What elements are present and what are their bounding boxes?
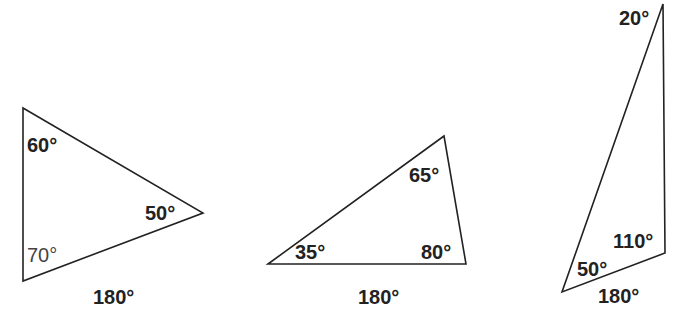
triangle-2: 65° 35° 80° 180° — [268, 136, 466, 308]
triangle-2-angle-right: 80° — [421, 241, 451, 263]
triangle-2-sum-label: 180° — [358, 286, 399, 308]
triangle-1-angle-right: 50° — [145, 202, 175, 224]
triangle-3-angle-top: 20° — [619, 7, 649, 29]
triangle-3-angle-left: 50° — [577, 258, 607, 280]
triangle-1-angle-top: 60° — [27, 134, 57, 156]
triangle-1-angle-bottom: 70° — [27, 244, 57, 266]
triangle-3: 20° 110° 50° 180° — [562, 4, 665, 307]
triangle-2-angle-left: 35° — [295, 241, 325, 263]
triangle-3-angle-right: 110° — [613, 230, 653, 252]
triangle-3-sum-label: 180° — [598, 285, 639, 307]
triangle-2-angle-top: 65° — [409, 164, 439, 186]
triangle-1-sum-label: 180° — [93, 286, 134, 308]
triangle-1: 60° 50° 70° 180° — [23, 108, 203, 308]
triangle-angle-diagram: 60° 50° 70° 180° 65° 35° 80° 180° 20° 11… — [0, 0, 688, 334]
